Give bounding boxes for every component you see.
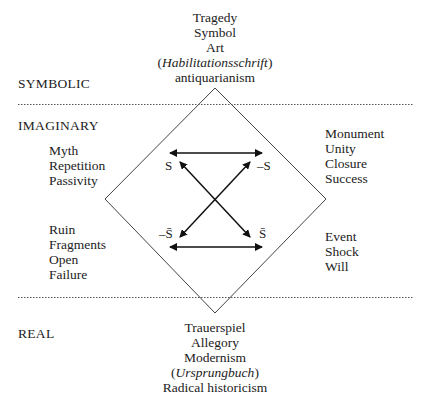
label-neg-s: –S (257, 158, 271, 173)
bottom-paren: (Ursprungbuch) (120, 365, 310, 380)
top-line: Art (120, 40, 310, 55)
label-s: S (165, 158, 172, 173)
left-upper-block: Myth Repetition Passivity (49, 143, 105, 188)
right-upper-block: Monument Unity Closure Success (325, 126, 384, 186)
right-lower-block: Event Shock Will (325, 229, 359, 274)
top-line: antiquarianism (120, 70, 310, 85)
left-lower-block: Ruin Fragments Open Failure (49, 222, 106, 282)
label-s-bar: S̄ (259, 226, 266, 241)
level-imaginary: IMAGINARY (18, 118, 99, 133)
level-real: REAL (18, 326, 54, 341)
label-neg-s-bar: –S̄ (159, 226, 173, 241)
bottom-block: Trauerspiel Allegory Modernism (Ursprung… (120, 320, 310, 395)
top-line: Symbol (120, 25, 310, 40)
top-block: Tragedy Symbol Art (Habilitationsschrift… (120, 10, 310, 85)
top-paren: (Habilitationsschrift) (120, 55, 310, 70)
top-line: Tragedy (120, 10, 310, 25)
level-symbolic: SYMBOLIC (18, 76, 90, 91)
